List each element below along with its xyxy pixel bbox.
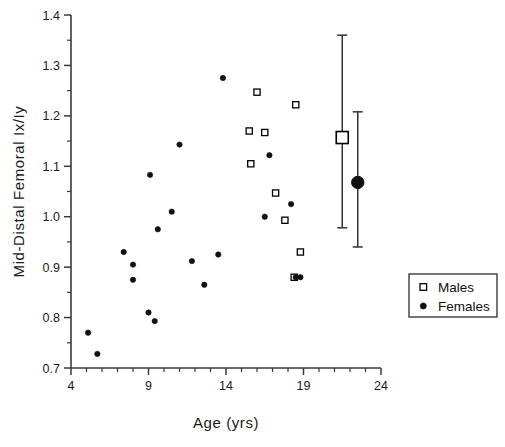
- data-point: [248, 161, 254, 167]
- y-tick-label: 1.3: [43, 59, 60, 73]
- data-point: [254, 89, 260, 95]
- y-tick-label: 1.2: [43, 109, 60, 123]
- x-axis-title: Age (yrs): [193, 414, 259, 431]
- legend-label: Females: [438, 299, 490, 314]
- summary-error-bars: [336, 35, 364, 247]
- y-tick-label: 1.0: [43, 210, 60, 224]
- legend: MalesFemales: [409, 274, 497, 317]
- legend-marker-open-square-icon: [420, 284, 427, 291]
- x-tick-label: 4: [68, 379, 75, 393]
- y-tick-label: 0.7: [43, 362, 60, 376]
- scatter-plot-figure: 0.70.80.91.01.11.21.31.449141924 MalesFe…: [0, 0, 505, 447]
- data-point: [95, 351, 100, 356]
- data-point: [297, 249, 303, 255]
- summary-males: [336, 35, 348, 228]
- data-point: [267, 152, 272, 157]
- data-point: [216, 252, 221, 257]
- data-point: [121, 249, 126, 254]
- summary-females: [352, 112, 364, 247]
- data-point: [293, 102, 299, 108]
- legend-label: Males: [438, 280, 474, 295]
- plot-canvas: 0.70.80.91.01.11.21.31.449141924 MalesFe…: [0, 0, 505, 447]
- x-tick-label: 24: [374, 379, 388, 393]
- x-tick-label: 14: [219, 379, 233, 393]
- y-tick-label: 1.1: [43, 160, 60, 174]
- data-point: [220, 75, 225, 80]
- data-point: [152, 318, 157, 323]
- data-point: [246, 128, 252, 134]
- data-point: [169, 209, 174, 214]
- data-point: [202, 282, 207, 287]
- series-females: [85, 75, 303, 356]
- y-axis-title: Mid-Distal Femoral Ix/Iy: [10, 106, 27, 278]
- data-point: [147, 172, 152, 177]
- series-males: [246, 89, 303, 280]
- data-point: [288, 201, 293, 206]
- x-tick-label: 9: [145, 379, 152, 393]
- y-tick-label: 0.8: [43, 311, 60, 325]
- data-points: [85, 75, 303, 356]
- data-point: [282, 217, 288, 223]
- y-tick-label: 1.4: [43, 9, 60, 23]
- data-point: [130, 277, 135, 282]
- axis-tick-labels: 0.70.80.91.01.11.21.31.449141924: [43, 9, 388, 394]
- data-point: [177, 142, 182, 147]
- data-point: [146, 310, 151, 315]
- data-point: [293, 275, 298, 280]
- legend-marker-filled-circle-icon: [420, 303, 426, 309]
- data-point: [262, 214, 267, 219]
- data-point: [262, 129, 268, 135]
- summary-mean-marker: [336, 132, 348, 144]
- axes: [71, 15, 381, 368]
- data-point: [130, 262, 135, 267]
- data-point: [189, 258, 194, 263]
- y-tick-label: 0.9: [43, 261, 60, 275]
- summary-mean-marker: [352, 176, 364, 188]
- data-point: [155, 227, 160, 232]
- data-point: [85, 330, 90, 335]
- x-tick-label: 19: [297, 379, 311, 393]
- data-point: [273, 190, 279, 196]
- axis-ticks: [64, 15, 381, 375]
